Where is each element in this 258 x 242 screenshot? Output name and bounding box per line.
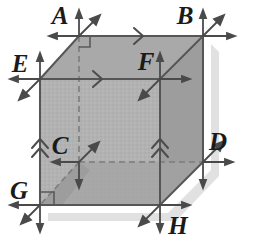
vertex-label-F: F [137, 48, 155, 75]
vertex-label-H: H [167, 212, 189, 239]
arrowhead-D-right [225, 159, 233, 165]
arrowhead-B-up [200, 10, 206, 18]
vertex-arrow-group-G [10, 202, 43, 232]
cube-diagram-svg: A B E F C D G H [0, 0, 258, 242]
vertex-arrow-group-B [200, 10, 235, 39]
vertex-label-D: D [208, 128, 227, 155]
arrowhead-E-up [37, 53, 43, 61]
arrowhead-A-left [49, 33, 57, 39]
arrowhead-H-down [157, 224, 163, 232]
arrowhead-B-right [227, 33, 235, 39]
geometry-figure-cube: A B E F C D G H [0, 0, 258, 242]
vertex-label-B: B [176, 2, 194, 29]
vertex-label-A: A [50, 2, 69, 29]
arrowhead-A-up [76, 10, 82, 18]
vertex-label-E: E [11, 50, 29, 77]
arrowhead-G-down [37, 224, 43, 232]
vertex-label-C: C [52, 132, 69, 159]
vertex-label-G: G [10, 177, 28, 204]
